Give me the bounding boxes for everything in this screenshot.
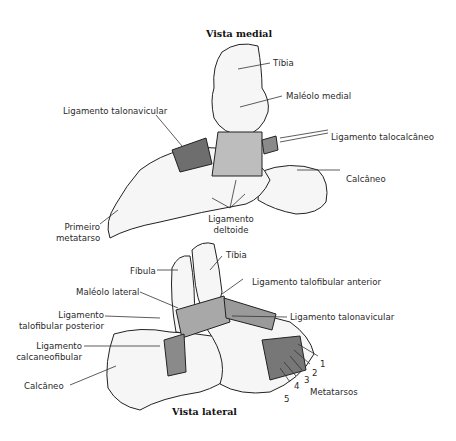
- label-medial-calcaneus: Calcâneo: [346, 174, 386, 185]
- label-fibula: Fíbula: [130, 266, 156, 277]
- medial-calcaneus-bone: [258, 165, 327, 214]
- label-medial-talonavicular-ligament: Ligamento talonavicular: [63, 106, 167, 117]
- label-anterior-talofibular-ligament: Ligamento talofibular anterior: [252, 277, 381, 288]
- label-medial-malleolus: Maléolo medial: [286, 91, 351, 102]
- label-lateral-calcaneus: Calcâneo: [24, 381, 64, 392]
- label-metatarsal-number-2: 2: [312, 368, 317, 379]
- label-calcaneofibular-ligament-line2: calcaneofibular: [10, 352, 82, 363]
- label-metatarsal-number-5: 5: [284, 394, 289, 405]
- label-first-metatarsal-line1: Primeiro: [56, 222, 100, 233]
- label-deltoid-ligament-line1: Ligamento: [204, 214, 258, 225]
- medial-deltoid-fibers: [212, 132, 262, 176]
- medial-tibia-bone: [212, 44, 268, 136]
- label-talocalcaneal-ligament: Ligamento talocalcâneo: [331, 132, 434, 143]
- medial-view-title: Vista medial: [206, 28, 272, 39]
- label-calcaneofibular-ligament-line1: Ligamento: [10, 341, 82, 352]
- label-first-metatarsal-line2: metatarso: [56, 233, 100, 244]
- label-posterior-talofibular-ligament-line2: talofibular posterior: [2, 321, 104, 332]
- label-lateral-talonavicular-ligament: Ligamento talonavicular: [290, 312, 394, 323]
- label-posterior-talofibular-ligament-line1: Ligamento: [2, 310, 104, 321]
- label-medial-tibia: Tíbia: [273, 58, 294, 69]
- medial-talocalcaneal-fibers: [262, 136, 278, 154]
- lateral-calcaneofibular-fibers: [164, 334, 186, 376]
- label-metatarsal-number-3: 3: [304, 375, 309, 386]
- label-lateral-tibia: Tíbia: [226, 250, 247, 261]
- label-deltoid-ligament-line2: deltoide: [204, 225, 258, 236]
- label-metatarsals: Metatarsos: [310, 387, 358, 398]
- label-metatarsal-number-1: 1: [320, 359, 325, 370]
- label-metatarsal-number-4: 4: [294, 381, 299, 392]
- label-lateral-malleolus: Maléolo lateral: [76, 287, 140, 298]
- lateral-view-title: Vista lateral: [172, 406, 237, 417]
